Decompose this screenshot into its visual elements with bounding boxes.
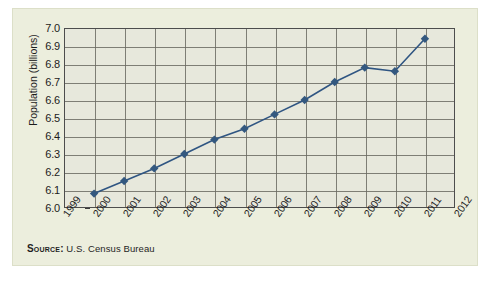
- data-point-marker: [330, 78, 338, 86]
- plot-wrapper: [64, 28, 455, 208]
- y-axis-tick-label: 6.8: [45, 58, 60, 70]
- data-point-marker: [300, 96, 308, 104]
- y-axis-tick-mark: [85, 208, 90, 209]
- y-axis-tick-label: 6.7: [45, 76, 60, 88]
- data-point-marker: [120, 177, 128, 185]
- source-note: Source: U.S. Census Bureau: [27, 243, 155, 254]
- figure-root: 6.06.16.26.36.46.56.66.76.86.97.0 Popula…: [0, 0, 492, 282]
- y-axis-tick-label: 6.1: [45, 184, 60, 196]
- data-point-marker: [361, 63, 369, 71]
- y-axis-tick-label: 6.3: [45, 148, 60, 160]
- y-axis-tick-label: 6.5: [45, 112, 60, 124]
- y-axis-tick-label: 6.6: [45, 94, 60, 106]
- y-axis-tick-label: 7.0: [45, 22, 60, 34]
- source-note-value: U.S. Census Bureau: [66, 243, 154, 254]
- line-series: [64, 28, 455, 208]
- series-line: [94, 39, 425, 194]
- data-point-marker: [150, 164, 158, 172]
- y-axis-tick-label: 6.4: [45, 130, 60, 142]
- y-axis-tick-label: 6.9: [45, 40, 60, 52]
- data-point-marker: [270, 110, 278, 118]
- source-note-label: Source:: [27, 243, 64, 254]
- y-axis-tick-label: 6.0: [45, 202, 60, 214]
- data-point-marker: [240, 125, 248, 133]
- y-axis-tick-label: 6.2: [45, 166, 60, 178]
- x-axis-tick-labels: 1999200020012002200320042005200620072008…: [64, 212, 455, 246]
- data-point-marker: [90, 189, 98, 197]
- data-point-marker: [210, 135, 218, 143]
- y-axis-title: Population (billions): [27, 20, 39, 140]
- data-point-marker: [180, 150, 188, 158]
